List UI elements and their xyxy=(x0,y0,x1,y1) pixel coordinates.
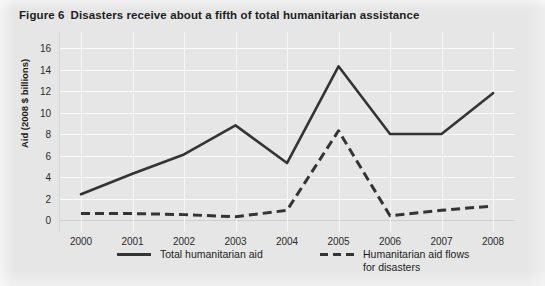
legend-item-total-humanitarian-aid: Total humanitarian aid xyxy=(117,248,263,261)
y-axis-tick-label: 2 xyxy=(29,193,51,204)
x-axis-tick-label: 2002 xyxy=(164,236,204,247)
x-axis-tick-label: 2008 xyxy=(473,236,513,247)
figure-title: Figure 6Disasters receive about a fifth … xyxy=(19,9,419,21)
x-axis-tick-label: 2001 xyxy=(113,236,153,247)
y-axis-tick-label: 16 xyxy=(29,43,51,54)
y-axis-label: Aid (2008 $ billions) xyxy=(19,34,30,174)
x-axis-tick-label: 2000 xyxy=(61,236,101,247)
series-total-humanitarian-aid xyxy=(81,66,493,194)
figure-title-text: Disasters receive about a fifth of total… xyxy=(71,9,420,21)
legend-label-total-humanitarian-aid: Total humanitarian aid xyxy=(160,248,263,261)
chart-lines xyxy=(59,32,515,232)
y-axis-tick-label: 6 xyxy=(29,150,51,161)
series-humanitarian-aid-flows-for-disasters xyxy=(81,131,493,217)
x-axis-tick-label: 2006 xyxy=(370,236,410,247)
x-axis-tick-label: 2007 xyxy=(422,236,462,247)
y-axis-tick-label: 8 xyxy=(29,129,51,140)
solid-line-swatch-icon xyxy=(117,248,151,260)
y-axis-ticks: 0246810121416 xyxy=(29,32,51,232)
x-axis-tick-label: 2005 xyxy=(319,236,359,247)
y-axis-tick-label: 14 xyxy=(29,64,51,75)
y-axis-tick-label: 4 xyxy=(29,172,51,183)
plot-area: Aid (2008 $ billions) 0246810121416 2000… xyxy=(0,32,545,232)
legend-item-humanitarian-aid-flows-for-disasters: Humanitarian aid flows for disasters xyxy=(320,248,469,273)
x-axis-tick-label: 2003 xyxy=(216,236,256,247)
legend-label-humanitarian-aid-flows: Humanitarian aid flows for disasters xyxy=(363,248,469,273)
figure-number: Figure 6 xyxy=(19,9,65,21)
dashed-line-swatch-icon xyxy=(320,248,354,260)
x-axis-tick-label: 2004 xyxy=(267,236,307,247)
y-axis-tick-label: 0 xyxy=(29,215,51,226)
figure-panel: Figure 6Disasters receive about a fifth … xyxy=(0,0,545,286)
y-axis-tick-label: 10 xyxy=(29,107,51,118)
chart-legend: Total humanitarian aid Humanitarian aid … xyxy=(0,248,545,282)
y-axis-tick-label: 12 xyxy=(29,86,51,97)
